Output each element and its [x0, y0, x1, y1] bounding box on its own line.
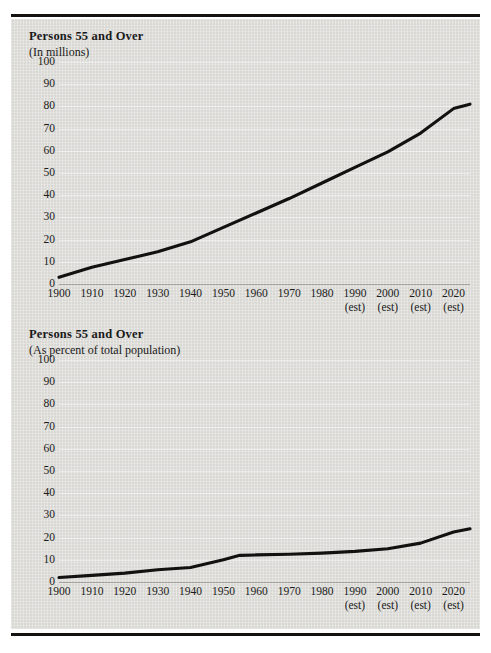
chart-2-plot-area: 0102030405060708090100 [29, 360, 470, 582]
chart-panel: Persons 55 and Over (In millions) 010203… [11, 19, 480, 629]
x-axis-tick-label: 2020(est) [437, 585, 471, 612]
x-axis-tick-year: 2020 [442, 287, 465, 299]
x-axis-tick-label: 2020(est) [437, 287, 471, 314]
x-axis-tick-label: 1970 [272, 585, 306, 598]
x-axis-baseline [59, 284, 470, 285]
x-axis-tick-year: 1910 [80, 287, 103, 299]
y-axis-tick-label: 60 [29, 443, 55, 455]
x-axis-tick-year: 1920 [113, 585, 136, 597]
data-series-line [59, 62, 470, 284]
x-axis-tick-year: 1940 [179, 585, 202, 597]
x-axis-baseline [59, 582, 470, 583]
x-axis-tick-label: 1960 [239, 287, 273, 300]
x-axis-tick-label: 1930 [141, 287, 175, 300]
x-axis-tick-year: 1950 [212, 585, 235, 597]
series-path [59, 529, 470, 578]
chart-1-x-axis: 1900191019201930194019501960197019801990… [59, 287, 482, 321]
x-axis-tick-year: 2010 [409, 287, 432, 299]
x-axis-tick-year: 2020 [442, 585, 465, 597]
x-axis-tick-label: 1920 [108, 585, 142, 598]
x-axis-tick-label: 1900 [42, 585, 76, 598]
x-axis-tick-estimate-note: (est) [371, 300, 405, 314]
y-axis-tick-label: 10 [29, 554, 55, 566]
data-series-line [59, 360, 470, 582]
x-axis-tick-label: 1950 [206, 287, 240, 300]
x-axis-tick-estimate-note: (est) [404, 300, 438, 314]
y-axis-tick-label: 50 [29, 167, 55, 179]
top-rule [11, 14, 480, 17]
x-axis-tick-label: 1990(est) [338, 287, 372, 314]
x-axis-tick-year: 1900 [48, 287, 71, 299]
x-axis-tick-year: 1930 [146, 585, 169, 597]
x-axis-tick-label: 1930 [141, 585, 175, 598]
x-axis-tick-label: 1980 [305, 585, 339, 598]
x-axis-tick-label: 1940 [174, 585, 208, 598]
x-axis-tick-label: 2010(est) [404, 585, 438, 612]
y-axis-tick-label: 100 [29, 354, 55, 366]
chart-2-title: Persons 55 and Over [29, 327, 144, 342]
x-axis-tick-estimate-note: (est) [404, 598, 438, 612]
y-axis-tick-label: 90 [29, 78, 55, 90]
x-axis-tick-label: 1900 [42, 287, 76, 300]
x-axis-tick-year: 1960 [245, 585, 268, 597]
x-axis-tick-estimate-note: (est) [338, 598, 372, 612]
x-axis-tick-label: 1980 [305, 287, 339, 300]
y-axis-tick-label: 40 [29, 487, 55, 499]
x-axis-tick-estimate-note: (est) [437, 598, 471, 612]
x-axis-tick-estimate-note: (est) [338, 300, 372, 314]
y-axis-tick-label: 70 [29, 421, 55, 433]
chart-2-x-axis: 1900191019201930194019501960197019801990… [59, 585, 482, 619]
bottom-rule [11, 633, 480, 636]
x-axis-tick-year: 1970 [278, 585, 301, 597]
y-axis-tick-label: 50 [29, 465, 55, 477]
chart-1-plot-area: 0102030405060708090100 [29, 62, 470, 284]
chart-persons-55-millions: Persons 55 and Over (In millions) 010203… [11, 19, 480, 324]
x-axis-tick-year: 1990 [343, 287, 366, 299]
x-axis-tick-label: 1910 [75, 585, 109, 598]
x-axis-tick-label: 1990(est) [338, 585, 372, 612]
x-axis-tick-year: 1960 [245, 287, 268, 299]
series-path [59, 104, 470, 277]
page-root: Persons 55 and Over (In millions) 010203… [0, 0, 491, 653]
y-axis-tick-label: 100 [29, 56, 55, 68]
y-axis-tick-label: 80 [29, 398, 55, 410]
y-axis-tick-label: 80 [29, 100, 55, 112]
y-axis-tick-label: 30 [29, 211, 55, 223]
y-axis-tick-label: 70 [29, 123, 55, 135]
y-axis-tick-label: 90 [29, 376, 55, 388]
x-axis-tick-year: 1900 [48, 585, 71, 597]
y-axis-tick-label: 30 [29, 509, 55, 521]
x-axis-tick-label: 1940 [174, 287, 208, 300]
x-axis-tick-year: 1930 [146, 287, 169, 299]
x-axis-tick-label: 1950 [206, 585, 240, 598]
x-axis-tick-year: 2000 [376, 287, 399, 299]
x-axis-tick-year: 2010 [409, 585, 432, 597]
chart-1-title: Persons 55 and Over [29, 29, 144, 44]
chart-persons-55-percent: Persons 55 and Over (As percent of total… [11, 317, 480, 629]
x-axis-tick-year: 1980 [311, 287, 334, 299]
x-axis-tick-year: 2000 [376, 585, 399, 597]
x-axis-tick-label: 2000(est) [371, 585, 405, 612]
y-axis-tick-label: 60 [29, 145, 55, 157]
x-axis-tick-year: 1950 [212, 287, 235, 299]
x-axis-tick-year: 1940 [179, 287, 202, 299]
x-axis-tick-year: 1920 [113, 287, 136, 299]
y-axis-tick-label: 40 [29, 189, 55, 201]
x-axis-tick-estimate-note: (est) [371, 598, 405, 612]
x-axis-tick-year: 1980 [311, 585, 334, 597]
y-axis-tick-label: 20 [29, 532, 55, 544]
x-axis-tick-label: 2000(est) [371, 287, 405, 314]
x-axis-tick-label: 1970 [272, 287, 306, 300]
x-axis-tick-label: 1960 [239, 585, 273, 598]
x-axis-tick-label: 1910 [75, 287, 109, 300]
x-axis-tick-label: 1920 [108, 287, 142, 300]
y-axis-tick-label: 10 [29, 256, 55, 268]
x-axis-tick-estimate-note: (est) [437, 300, 471, 314]
x-axis-tick-label: 2010(est) [404, 287, 438, 314]
x-axis-tick-year: 1970 [278, 287, 301, 299]
x-axis-tick-year: 1910 [80, 585, 103, 597]
y-axis-tick-label: 20 [29, 234, 55, 246]
x-axis-tick-year: 1990 [343, 585, 366, 597]
